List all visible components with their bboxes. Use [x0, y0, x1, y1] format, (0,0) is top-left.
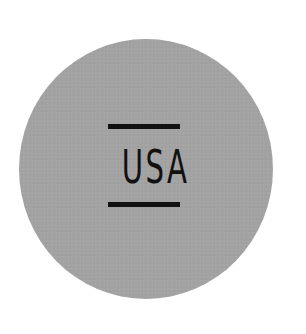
badge-label: USA: [122, 145, 167, 189]
top-rule: [108, 124, 180, 129]
bottom-rule: [108, 202, 180, 207]
